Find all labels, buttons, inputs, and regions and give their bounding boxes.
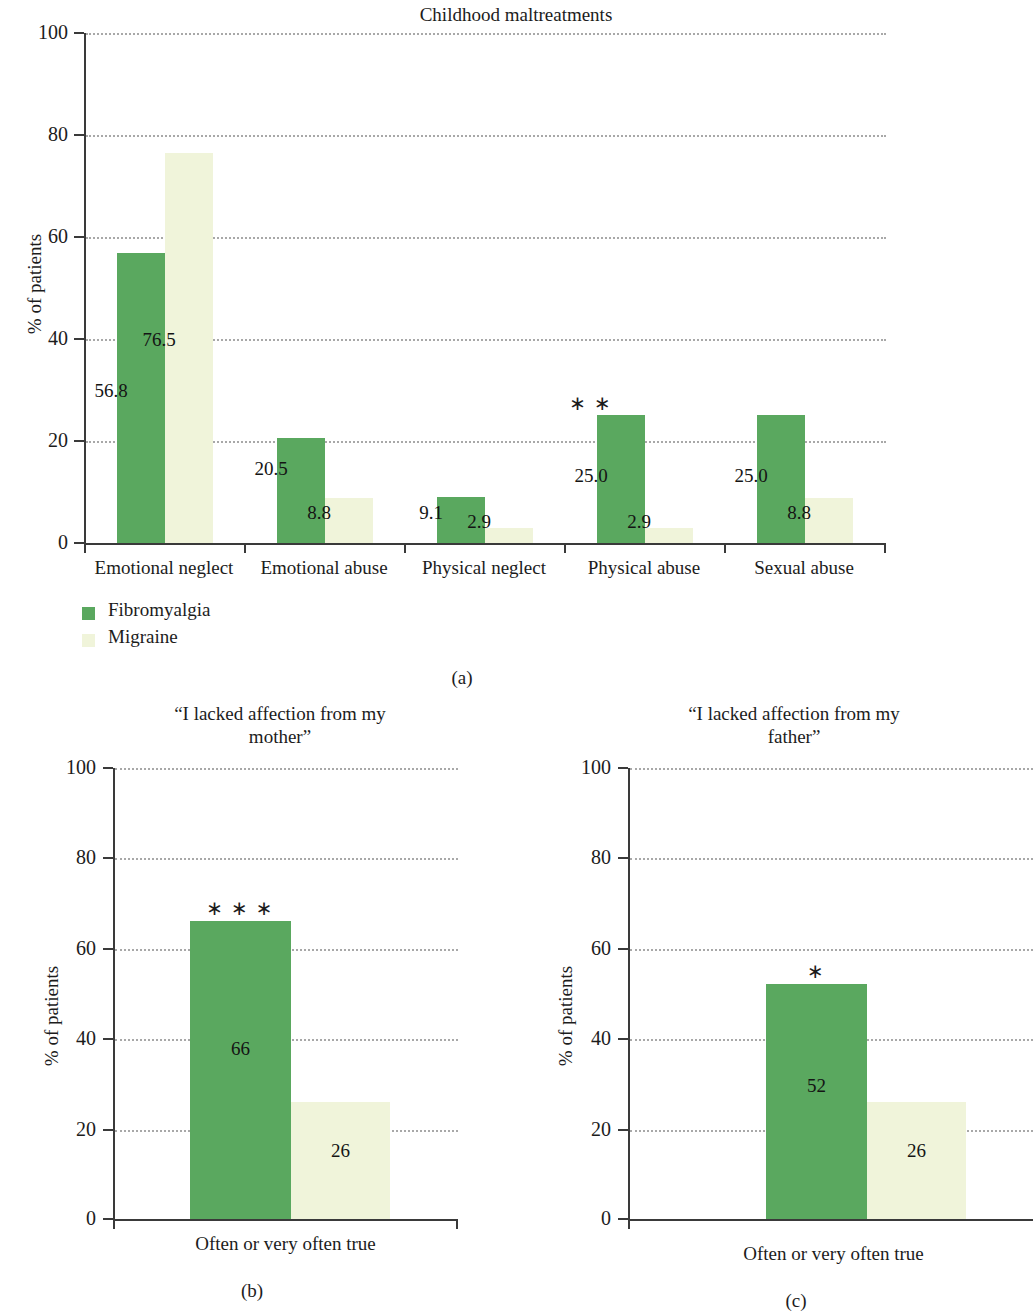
legend-swatch-fibromyalgia: [82, 607, 95, 620]
panel-a-category-label-emotional-neglect: Emotional neglect: [84, 557, 244, 579]
panel-a-ytick-60: 60: [10, 226, 68, 246]
bar-value-fibromyalgia-mother: 66: [190, 1038, 291, 1060]
panel-c-ytick-20: 20: [553, 1119, 611, 1139]
bar-value-fibromyalgia-father: 52: [766, 1075, 867, 1097]
panel-c-x-axis: [628, 1219, 1033, 1221]
panel-a-ytick-0: 0: [10, 532, 68, 552]
bar-fibromyalgia-mother: [190, 921, 291, 1219]
panel-b-ytick-60: 60: [38, 938, 96, 958]
panel-a-ytick-100: 100: [10, 22, 68, 42]
panel-b-ytick-0: 0: [38, 1208, 96, 1228]
bar-value-migraine-physical-neglect: 2.9: [455, 511, 503, 533]
bar-value-migraine-emotional-abuse: 8.8: [295, 502, 343, 524]
bar-value-migraine-father: 26: [867, 1140, 966, 1162]
panel-c-ytick-100: 100: [553, 757, 611, 777]
panel-a-ytick-20: 20: [10, 430, 68, 450]
bar-value-migraine-mother: 26: [291, 1140, 390, 1162]
panel-b-ytick-80: 80: [38, 847, 96, 867]
bar-value-fibromyalgia-emotional-neglect: 56.8: [87, 380, 135, 402]
panel-c-x-axis-label: Often or very often true: [661, 1243, 1006, 1265]
panel-b-x-axis: [113, 1219, 458, 1221]
legend-label-fibromyalgia: Fibromyalgia: [108, 599, 210, 621]
panel-a-caption: (a): [432, 667, 492, 689]
panel-a-ytick-40: 40: [10, 328, 68, 348]
panel-c-ytick-40: 40: [553, 1028, 611, 1048]
bar-value-migraine-sexual-abuse: 8.8: [775, 502, 823, 524]
panel-b-x-tick-right: [456, 1219, 458, 1229]
panel-c-ytick-60: 60: [553, 938, 611, 958]
panel-a-category-label-physical-abuse: Physical abuse: [564, 557, 724, 579]
panel-a: Childhood maltreatments % of patients 10…: [0, 0, 1033, 690]
significance-marker-father: ∗: [766, 959, 867, 983]
panel-a-category-label-physical-neglect: Physical neglect: [404, 557, 564, 579]
panel-b-x-tick-left: [113, 1219, 115, 1229]
panel-b-title: “I lacked affection from my mother”: [130, 702, 430, 748]
legend-swatch-migraine: [82, 634, 95, 647]
panel-a-ytick-80: 80: [10, 124, 68, 144]
panel-b-ytick-20: 20: [38, 1119, 96, 1139]
bar-value-migraine-emotional-neglect: 76.5: [135, 329, 183, 351]
panel-c-ytick-0: 0: [553, 1208, 611, 1228]
panel-b-plot-area: [113, 768, 458, 1219]
bar-value-migraine-physical-abuse: 2.9: [615, 511, 663, 533]
panel-b-y-axis-title: % of patients: [41, 936, 63, 1096]
panel-c-caption: (c): [766, 1290, 826, 1311]
panel-c-x-tick-left: [628, 1219, 630, 1229]
panel-b-ytick-40: 40: [38, 1028, 96, 1048]
panel-a-category-label-sexual-abuse: Sexual abuse: [724, 557, 884, 579]
bar-value-fibromyalgia-emotional-abuse: 20.5: [247, 458, 295, 480]
panel-c-y-axis-title: % of patients: [555, 936, 577, 1096]
bar-value-fibromyalgia-sexual-abuse: 25.0: [727, 465, 775, 487]
panel-c-plot-area: [628, 768, 1033, 1219]
panel-c: “I lacked affection from my father” % of…: [516, 690, 1033, 1311]
panel-a-title: Childhood maltreatments: [256, 3, 776, 26]
bar-fibromyalgia-emotional-abuse: [277, 438, 325, 543]
panel-b-x-axis-label: Often or very often true: [113, 1233, 458, 1255]
bar-fibromyalgia-father: [766, 984, 867, 1219]
panel-c-ytick-80: 80: [553, 847, 611, 867]
panel-b-caption: (b): [222, 1280, 282, 1302]
bar-value-fibromyalgia-physical-abuse: 25.0: [567, 465, 615, 487]
panel-b-ytick-100: 100: [38, 757, 96, 777]
panel-a-x-axis: [84, 543, 886, 545]
significance-marker-mother: ∗ ∗ ∗: [190, 896, 291, 920]
bar-value-fibromyalgia-physical-neglect: 9.1: [407, 502, 455, 524]
panel-c-title: “I lacked affection from my father”: [644, 702, 944, 748]
legend-label-migraine: Migraine: [108, 626, 178, 648]
panel-b: “I lacked affection from my mother” % of…: [0, 690, 516, 1311]
panel-a-category-label-emotional-abuse: Emotional abuse: [244, 557, 404, 579]
significance-marker-physical-abuse: ∗ ∗: [567, 391, 615, 415]
